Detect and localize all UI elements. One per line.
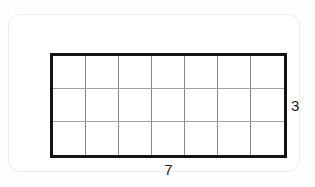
unit-square [53,122,86,155]
figure-root: 7 3 [0,0,315,187]
unit-square [86,89,119,122]
unit-square [119,122,152,155]
unit-square [152,122,185,155]
unit-square [185,89,218,122]
unit-square [53,89,86,122]
unit-square-grid [50,53,287,158]
unit-square [53,56,86,89]
unit-square [86,56,119,89]
unit-square [251,56,284,89]
width-dimension-label: 7 [50,160,287,180]
unit-square [251,89,284,122]
unit-square [119,56,152,89]
unit-square [218,56,251,89]
unit-square [251,122,284,155]
unit-square [86,122,119,155]
unit-square [218,89,251,122]
unit-square [152,89,185,122]
rectangle-area-model [50,53,287,158]
figure-card: 7 3 [8,14,300,172]
width-dimension-value: 7 [164,161,172,178]
unit-square [152,56,185,89]
unit-square [185,122,218,155]
height-dimension-label: 3 [291,53,299,158]
unit-square [119,89,152,122]
unit-square [218,122,251,155]
unit-square [185,56,218,89]
height-dimension-value: 3 [291,97,299,114]
